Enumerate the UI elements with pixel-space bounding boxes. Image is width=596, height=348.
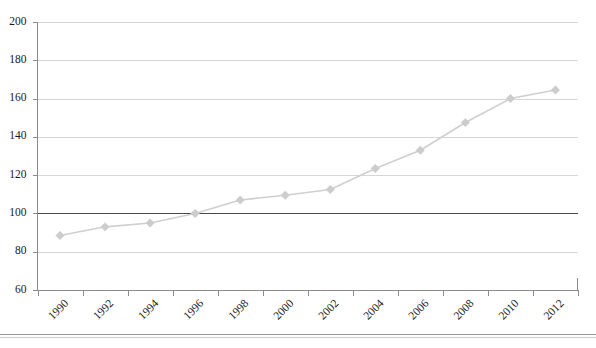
y-tick-label-60: 60 (15, 283, 27, 295)
line-chart: 6080100120140160180200 19901992199419961… (0, 0, 596, 348)
y-tick-label-120: 120 (9, 168, 27, 180)
y-tick-label-80: 80 (15, 244, 27, 256)
y-tick-label-180: 180 (9, 53, 27, 65)
y-tick-label-100: 100 (9, 206, 27, 218)
y-tick-label-140: 140 (9, 129, 27, 141)
y-tick-label-200: 200 (9, 15, 27, 27)
y-tick-label-160: 160 (9, 91, 27, 103)
chart-figure: 6080100120140160180200 19901992199419961… (0, 0, 596, 348)
chart-background (0, 0, 596, 348)
